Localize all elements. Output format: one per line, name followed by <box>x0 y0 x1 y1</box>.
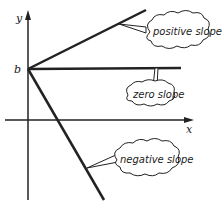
positive-slope-line <box>28 10 146 69</box>
slope-diagram: y x b positive slope zero slope negative… <box>0 0 223 211</box>
zero-slope-callout: zero slope <box>127 68 185 106</box>
negative-slope-label: negative slope <box>120 154 194 165</box>
x-axis-label: x <box>186 123 193 136</box>
positive-slope-label: positive slope <box>152 26 222 37</box>
x-axis <box>5 117 194 123</box>
negative-slope-line <box>28 69 104 200</box>
y-axis-arrow-icon <box>25 10 31 20</box>
intercept-label: b <box>14 63 21 76</box>
negative-slope-callout: negative slope <box>87 139 194 176</box>
y-axis-label: y <box>15 12 23 25</box>
y-axis <box>25 10 31 200</box>
zero-slope-label: zero slope <box>132 89 184 100</box>
